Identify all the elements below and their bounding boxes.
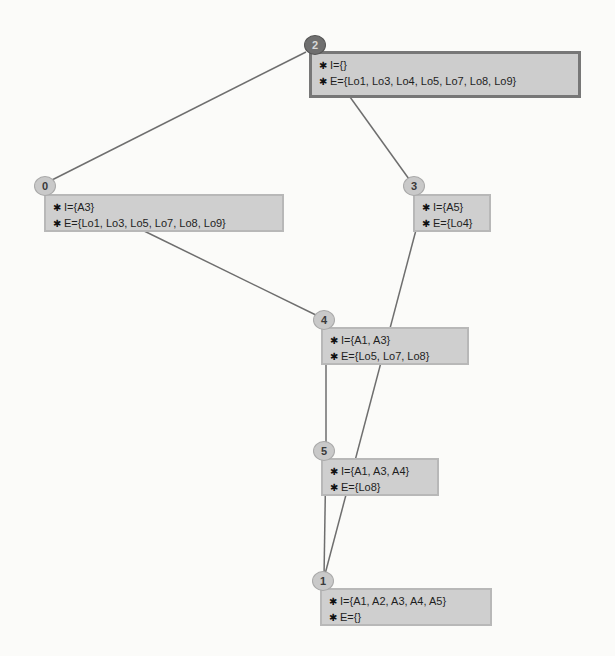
node-3-extent: E={Lo4} [433,215,472,231]
bug-icon: ✱ [329,483,338,492]
node-0-id: 0 [42,180,48,192]
node-2-box[interactable]: ✱ I={} ✱ E={Lo1, Lo3, Lo4, Lo5, Lo7, Lo8… [309,51,581,98]
bug-icon: ✱ [329,336,338,345]
node-5-circle[interactable]: 5 [313,441,335,461]
node-1-circle[interactable]: 1 [312,571,334,591]
bug-icon: ✱ [421,219,430,228]
node-5-extent: E={Lo8} [341,479,380,495]
node-0-intent: I={A3} [64,199,94,215]
node-3-id: 3 [411,180,417,192]
node-2-circle[interactable]: 2 [304,35,326,55]
node-4-id: 4 [321,314,327,326]
node-5-id: 5 [321,445,327,457]
node-0-extent: E={Lo1, Lo3, Lo5, Lo7, Lo8, Lo9} [64,215,226,231]
edge-2-3 [350,97,414,186]
bug-icon: ✱ [328,613,337,622]
node-2-extent: E={Lo1, Lo3, Lo4, Lo5, Lo7, Lo8, Lo9} [330,73,516,89]
edges-layer [0,0,615,656]
lattice-diagram: 2 ✱ I={} ✱ E={Lo1, Lo3, Lo4, Lo5, Lo7, L… [0,0,615,656]
node-3-box[interactable]: ✱ I={A5} ✱ E={Lo4} [413,194,491,232]
node-4-intent: I={A1, A3} [341,332,390,348]
node-3-circle[interactable]: 3 [403,176,425,196]
node-1-id: 1 [320,575,326,587]
node-4-box[interactable]: ✱ I={A1, A3} ✱ E={Lo5, Lo7, Lo8} [321,327,469,365]
node-4-extent: E={Lo5, Lo7, Lo8} [341,348,429,364]
bug-icon: ✱ [318,61,327,70]
bug-icon: ✱ [329,352,338,361]
node-4-circle[interactable]: 4 [313,310,335,330]
bug-icon: ✱ [52,203,61,212]
node-5-intent: I={A1, A3, A4} [341,463,409,479]
bug-icon: ✱ [52,219,61,228]
edge-3-1 [324,230,416,578]
node-3-intent: I={A5} [433,199,463,215]
node-2-id: 2 [312,39,318,51]
bug-icon: ✱ [329,467,338,476]
node-1-extent: E={} [340,609,361,625]
bug-icon: ✱ [328,597,337,606]
bug-icon: ✱ [318,77,327,86]
node-2-intent: I={} [330,57,347,73]
edge-2-0 [46,52,306,183]
node-1-box[interactable]: ✱ I={A1, A2, A3, A4, A5} ✱ E={} [320,588,492,626]
node-5-box[interactable]: ✱ I={A1, A3, A4} ✱ E={Lo8} [321,458,439,496]
node-0-circle[interactable]: 0 [34,176,56,196]
node-1-intent: I={A1, A2, A3, A4, A5} [340,593,446,609]
edge-0-4 [138,228,322,318]
node-0-box[interactable]: ✱ I={A3} ✱ E={Lo1, Lo3, Lo5, Lo7, Lo8, L… [44,194,284,232]
bug-icon: ✱ [421,203,430,212]
